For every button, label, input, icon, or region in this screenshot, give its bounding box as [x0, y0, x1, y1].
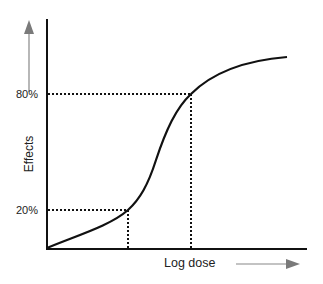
x-axis-label: Log dose — [164, 257, 215, 270]
dose-response-chart — [0, 0, 323, 284]
y-tick-20: 20% — [16, 205, 38, 216]
x-arrow-icon — [236, 259, 300, 269]
y-axis-label: Effects — [23, 134, 35, 174]
dose-response-curve — [47, 57, 287, 248]
y-arrow-icon — [24, 20, 34, 92]
y-tick-80: 80% — [16, 89, 38, 100]
